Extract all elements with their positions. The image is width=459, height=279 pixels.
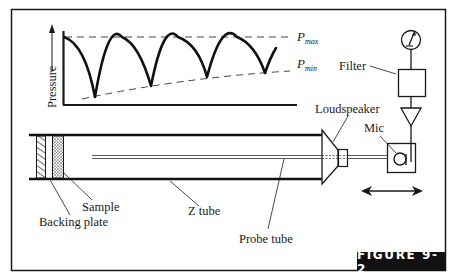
pmin-label: Pmin <box>296 56 317 73</box>
sample-label: Sample <box>82 200 120 214</box>
loudspeaker-leader <box>333 116 348 142</box>
backing-plate <box>37 136 46 178</box>
double-arrow-icon <box>361 186 423 196</box>
filter-label: Filter <box>339 59 367 73</box>
pressure-plot: Pressure Pmax Pmin <box>45 24 319 108</box>
z-tube-label: Z tube <box>188 204 221 218</box>
filter-box <box>399 70 426 97</box>
z-tube-assembly: Loudspeaker Sample Backing plate Z tube … <box>29 102 388 246</box>
pressure-axis-label: Pressure <box>45 65 59 108</box>
loudspeaker-label: Loudspeaker <box>315 102 380 116</box>
z-tube-leader <box>170 181 199 206</box>
filter-leader <box>370 66 396 74</box>
pmin-line <box>82 71 290 99</box>
mic-icon <box>394 153 406 165</box>
sample <box>53 136 64 178</box>
probe-tube-label: Probe tube <box>239 232 293 246</box>
figure-number-label: FIGURE 9-2 <box>357 252 446 271</box>
probe-tube-leader <box>268 159 284 229</box>
backing-plate-label: Backing plate <box>39 215 109 229</box>
pressure-curve <box>64 33 276 97</box>
meter-gauge-icon <box>402 31 421 50</box>
amplifier-triangle-icon <box>401 108 421 126</box>
loudspeaker-magnet <box>339 150 348 167</box>
pressure-arrow-icon <box>49 24 55 72</box>
figure-canvas: Pressure Pmax Pmin <box>0 0 459 279</box>
pmax-label: Pmax <box>296 29 319 46</box>
sample-leader <box>64 173 92 200</box>
backing-plate-leader <box>49 178 70 215</box>
diagram-svg: Pressure Pmax Pmin <box>0 0 459 279</box>
mic-label: Mic <box>364 121 385 135</box>
